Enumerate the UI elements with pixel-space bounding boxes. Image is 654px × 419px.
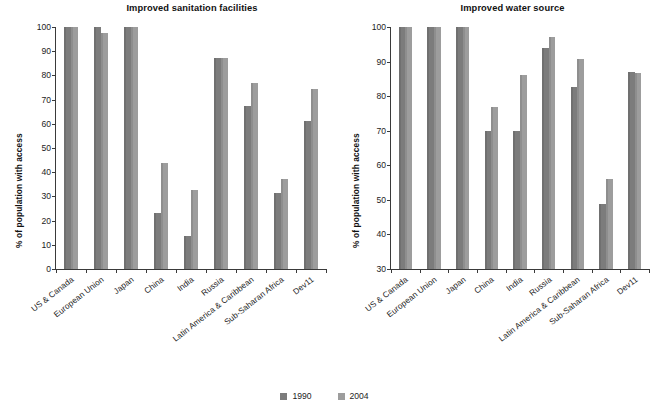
x-tick-mark: [236, 269, 237, 273]
x-tick-mark: [448, 269, 449, 273]
bar-2004: [191, 190, 198, 269]
x-tick-mark: [266, 269, 267, 273]
x-tick-mark: [563, 269, 564, 273]
x-tick-mark: [477, 269, 478, 273]
bar-group: Japan: [116, 27, 146, 269]
legend-swatch-2004: [338, 393, 345, 400]
x-tick-mark: [296, 269, 297, 273]
x-tick-mark: [206, 269, 207, 273]
bar-group: European Union: [86, 27, 116, 269]
x-axis-label: Russia: [200, 275, 226, 298]
x-tick-mark: [620, 269, 621, 273]
bar-1990: [399, 27, 406, 269]
x-tick-mark: [56, 269, 57, 273]
bar-2004: [463, 27, 470, 269]
legend-item: 1990: [280, 391, 311, 401]
bar-group: Latin America & Caribbean: [236, 27, 266, 269]
x-axis-label: Dev11: [291, 275, 315, 297]
chart-title-right: Improved water source: [340, 3, 654, 13]
x-tick-mark: [116, 269, 117, 273]
x-tick-mark: [86, 269, 87, 273]
bar-group: Latin America & Caribbean: [563, 27, 592, 269]
legend-item: 2004: [338, 391, 369, 401]
bar-group: Russia: [206, 27, 236, 269]
bar-1990: [427, 27, 434, 269]
bar-1990: [513, 131, 520, 269]
bar-1990: [244, 106, 251, 269]
x-axis-label: China: [473, 275, 496, 296]
bar-group: Japan: [448, 27, 477, 269]
bar-2004: [434, 27, 441, 269]
bar-2004: [311, 89, 318, 269]
bar-2004: [161, 163, 168, 269]
x-tick-mark: [506, 269, 507, 273]
bar-2004: [221, 58, 228, 269]
bar-2004: [405, 27, 412, 269]
bar-group: China: [477, 27, 506, 269]
chart-title-left: Improved sanitation facilities: [0, 3, 362, 13]
bar-group: Dev11: [296, 27, 326, 269]
bar-1990: [274, 193, 281, 269]
bar-2004: [491, 107, 498, 269]
x-tick-mark: [176, 269, 177, 273]
bar-1990: [485, 131, 492, 269]
x-tick-mark: [326, 269, 327, 273]
bar-group: Sub-Saharan Africa: [266, 27, 296, 269]
bar-2004: [635, 73, 642, 269]
x-tick-mark: [391, 269, 392, 273]
x-axis-label: Dev11: [615, 275, 639, 297]
bar-1990: [571, 87, 578, 269]
bar-group: European Union: [420, 27, 449, 269]
x-axis-label: India: [176, 275, 196, 293]
bar-1990: [599, 204, 606, 269]
bar-1990: [542, 48, 549, 269]
bar-1990: [94, 27, 101, 269]
y-axis-label-left: % of population with access: [14, 133, 24, 248]
bar-group: India: [176, 27, 206, 269]
bar-group: Dev11: [620, 27, 649, 269]
bar-1990: [124, 27, 131, 269]
bar-1990: [628, 72, 635, 269]
bar-1990: [214, 58, 221, 269]
x-tick-mark: [146, 269, 147, 273]
chart-panel-sanitation: Improved sanitation facilities % of popu…: [0, 0, 340, 390]
bar-2004: [71, 27, 78, 269]
x-tick-mark: [649, 269, 650, 273]
bar-group: Russia: [534, 27, 563, 269]
bar-group: India: [506, 27, 535, 269]
bar-1990: [304, 121, 311, 269]
bar-1990: [154, 213, 161, 269]
bar-group: China: [146, 27, 176, 269]
bar-2004: [606, 179, 613, 269]
x-axis-label: India: [505, 275, 525, 293]
bar-group: US & Canada: [391, 27, 420, 269]
plot-area-left: 0102030405060708090100US & CanadaEuropea…: [55, 27, 326, 270]
bar-group: US & Canada: [56, 27, 86, 269]
bar-2004: [577, 59, 584, 269]
x-axis-label: Japan: [112, 275, 136, 296]
x-axis-label: Japan: [444, 275, 468, 296]
x-tick-mark: [420, 269, 421, 273]
x-axis-label: China: [143, 275, 166, 296]
legend-swatch-1990: [280, 393, 287, 400]
x-tick-mark: [534, 269, 535, 273]
bar-2004: [549, 37, 556, 269]
legend-label: 1990: [292, 391, 311, 401]
bar-1990: [64, 27, 71, 269]
legend-label: 2004: [350, 391, 369, 401]
y-axis-label-right: % of population with access: [351, 133, 361, 248]
bar-group: Sub-Saharan Africa: [592, 27, 621, 269]
bar-1990: [184, 236, 191, 269]
bar-1990: [456, 27, 463, 269]
legend: 19902004: [0, 391, 649, 401]
bar-2004: [131, 27, 138, 269]
bar-2004: [520, 75, 527, 269]
bar-2004: [281, 179, 288, 269]
bar-2004: [101, 33, 108, 269]
bar-2004: [251, 83, 258, 269]
plot-area-right: 30405060708090100US & CanadaEuropean Uni…: [390, 27, 649, 270]
x-tick-mark: [592, 269, 593, 273]
chart-panel-water: Improved water source % of population wi…: [340, 0, 649, 390]
